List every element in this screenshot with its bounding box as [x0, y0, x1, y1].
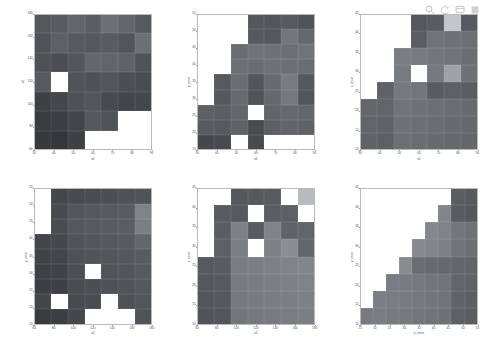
- heatmap-cell: [85, 92, 102, 111]
- heatmap-cell: [68, 188, 85, 203]
- heatmap-cell: [298, 14, 315, 29]
- heatmap-cell: [264, 90, 281, 105]
- subplot-panel-x1-yerror: 55504540353025201530405060708090y_errorx…: [163, 0, 326, 175]
- heatmap-cell: [214, 14, 231, 29]
- y-tick-mark: [33, 205, 34, 206]
- heatmap-cell: [264, 188, 281, 205]
- heatmap-cell: [264, 274, 281, 291]
- heatmap-cell: [373, 274, 386, 291]
- heatmap-cell: [411, 31, 428, 48]
- heatmap-cell: [377, 31, 394, 48]
- heatmap-cells: [197, 14, 314, 150]
- x-tick-label: 45: [447, 327, 450, 330]
- heatmap-cell: [281, 29, 298, 44]
- x-tick-mark: [93, 325, 94, 326]
- heatmap-cell: [411, 116, 428, 133]
- x-tick-label: 80: [215, 327, 218, 330]
- heatmap-cell: [248, 120, 265, 135]
- heatmap-cell: [438, 222, 451, 239]
- x-tick-label: 30: [32, 152, 35, 155]
- y-tick-mark: [359, 72, 360, 73]
- axes-panel-x1-yerror[interactable]: 55504540353025201530405060708090y_errorx…: [197, 14, 314, 150]
- heatmap-cell: [118, 188, 135, 203]
- axes-panel-x1-xerror[interactable]: 454035302520151030405060708090x_errorx1: [360, 14, 477, 150]
- heatmap-cell: [298, 29, 315, 44]
- y-tick-mark: [359, 305, 360, 306]
- heatmap-cell: [135, 219, 152, 234]
- heatmap-cell: [281, 308, 298, 325]
- y-tick-mark: [196, 65, 197, 66]
- heatmap-cell: [101, 204, 118, 219]
- heatmap-cell: [231, 205, 248, 222]
- y-axis-label: x_error: [350, 77, 354, 87]
- heatmap-cell: [412, 257, 425, 274]
- y-tick-mark: [33, 127, 34, 128]
- heatmap-cell: [68, 33, 85, 52]
- heatmap-cell: [34, 219, 51, 234]
- heatmap-cell: [425, 222, 438, 239]
- heatmap-cell: [68, 309, 85, 324]
- x-tick-mark: [295, 150, 296, 151]
- heatmap-cell: [399, 308, 412, 325]
- x-tick-label: 30: [402, 327, 405, 330]
- datacursor-icon[interactable]: [455, 5, 465, 15]
- x-tick-mark: [434, 325, 435, 326]
- heatmap-cell: [298, 222, 315, 239]
- heatmap-cell: [438, 274, 451, 291]
- heatmap-cell: [399, 257, 412, 274]
- x-tick-label: 90: [150, 152, 153, 155]
- axes-panel-x1-x2[interactable]: 180160140120100806030405060708090x2x1: [34, 14, 151, 150]
- heatmap-cell: [197, 105, 214, 120]
- heatmap-cell: [231, 74, 248, 89]
- heatmap-cell: [298, 44, 315, 59]
- heatmap-cell: [444, 65, 461, 82]
- heatmap-cell: [264, 105, 281, 120]
- x-tick-mark: [448, 325, 449, 326]
- heatmap-cell: [451, 188, 464, 205]
- zoom-icon[interactable]: [425, 5, 435, 15]
- heatmap-cell: [101, 111, 118, 130]
- axes-panel-x2-xerror[interactable]: 45403530252015106080100120140160180x_err…: [197, 188, 314, 324]
- heatmap-cell: [51, 53, 68, 72]
- heatmap-cell: [438, 188, 451, 205]
- y-tick-mark: [196, 247, 197, 248]
- heatmap-cell: [34, 33, 51, 52]
- heatmap-cell: [438, 291, 451, 308]
- heatmap-cell: [214, 74, 231, 89]
- heatmap-cell: [281, 120, 298, 135]
- x-tick-label: 40: [215, 152, 218, 155]
- heatmap-cell: [427, 14, 444, 31]
- heatmap-cell: [231, 308, 248, 325]
- heatmap-cell: [394, 82, 411, 99]
- heatmap-cell: [298, 105, 315, 120]
- heatmap-cell: [231, 29, 248, 44]
- heatmap-cell: [373, 205, 386, 222]
- x-tick-mark: [34, 325, 35, 326]
- heatmap-cell: [281, 274, 298, 291]
- heatmap-cell: [451, 222, 464, 239]
- figure-toolbar[interactable]: [425, 5, 480, 15]
- y-tick-mark: [359, 131, 360, 132]
- heatmap-cell: [248, 274, 265, 291]
- x-tick-mark: [54, 150, 55, 151]
- y-axis-label: y_error: [350, 251, 354, 261]
- heatmap-cells: [34, 14, 151, 150]
- x-tick-label: 60: [195, 327, 198, 330]
- axes-panel-x2-yerror[interactable]: 5550454035302520156080100120140160180y_e…: [34, 188, 151, 324]
- heatmap-cell: [394, 14, 411, 31]
- heatmap-cell: [51, 249, 68, 264]
- heatmap-cell: [411, 133, 428, 150]
- x-tick-label: 40: [378, 152, 381, 155]
- x-tick-mark: [256, 325, 257, 326]
- pan-icon[interactable]: [440, 5, 450, 15]
- heatmap-cell: [248, 44, 265, 59]
- axes-panel-xerror-yerror[interactable]: 4540353025201510152025303540455055y_erro…: [360, 188, 477, 324]
- x-tick-mark: [152, 150, 153, 151]
- x-tick-label: 90: [476, 152, 479, 155]
- x-tick-mark: [463, 325, 464, 326]
- heatmap-cell: [101, 234, 118, 249]
- heatmap-cells: [197, 188, 314, 324]
- colorbar-icon[interactable]: [470, 5, 480, 15]
- heatmap-cell: [118, 131, 135, 150]
- heatmap-cells: [34, 188, 151, 324]
